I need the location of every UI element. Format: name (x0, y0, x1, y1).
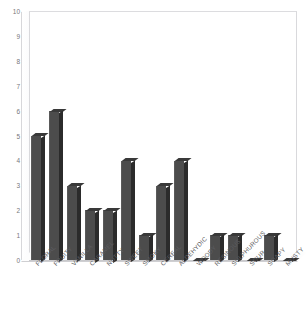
bar-slot (172, 11, 190, 260)
y-tick-label: 4 (2, 157, 20, 164)
bar-slot (29, 11, 47, 260)
bar (121, 161, 131, 260)
bar (31, 136, 41, 260)
y-tick-label: 6 (2, 107, 20, 114)
y-tick-label: 10 (2, 8, 20, 15)
y-tick-label: 0 (2, 257, 20, 264)
y-tick-label: 2 (2, 207, 20, 214)
bar-slot (83, 11, 101, 260)
bar-slot (208, 11, 226, 260)
x-axis-labels: FLORALFRUITYVANILLACARAMELNUTTYSWEETSMOK… (29, 262, 301, 310)
y-tick-label: 3 (2, 182, 20, 189)
bar-slot (226, 11, 244, 260)
bar-chart: 109876543210 FLORALFRUITYVANILLACARAMELN… (0, 0, 307, 310)
bar-slot (136, 11, 154, 260)
y-tick-label: 1 (2, 232, 20, 239)
bar-slot (65, 11, 83, 260)
bar-slot (261, 11, 279, 260)
bar-series (29, 11, 297, 260)
bar-slot (100, 11, 118, 260)
bar-slot (47, 11, 65, 260)
y-tick-label: 5 (2, 132, 20, 139)
bar-slot (154, 11, 172, 260)
bar-slot (279, 11, 297, 260)
bar-slot (118, 11, 136, 260)
y-tick-label: 9 (2, 32, 20, 39)
cropped-top-text (6, 0, 301, 8)
y-axis: 109876543210 (2, 10, 20, 260)
bar-slot (190, 11, 208, 260)
y-tick-label: 8 (2, 57, 20, 64)
bar-slot (243, 11, 261, 260)
bar (49, 111, 59, 260)
y-tick-label: 7 (2, 82, 20, 89)
